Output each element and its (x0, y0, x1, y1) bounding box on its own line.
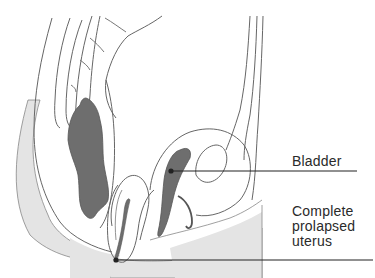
vertebral-discs (71, 18, 126, 92)
pubic-bone (196, 145, 227, 182)
label-uterus-line-2: prolapsed (292, 219, 355, 234)
label-uterus-line-1: Complete (292, 204, 355, 219)
bladder-leader-dot (168, 168, 173, 173)
sacrum-outline (55, 18, 70, 128)
uterus-leader-dot (113, 257, 118, 262)
diagram-canvas: Bladder Complete prolapsed uterus (0, 0, 375, 278)
sacral-curve (105, 16, 162, 118)
label-bladder-text: Bladder (292, 153, 342, 169)
label-uterus-line-3: uterus (292, 234, 355, 249)
abdominal-wall-lines (226, 16, 263, 200)
label-bladder: Bladder (292, 154, 342, 169)
bladder-wall-dark (158, 148, 191, 236)
label-prolapsed-uterus: Complete prolapsed uterus (292, 204, 355, 249)
perineum-region (170, 212, 262, 278)
rectum (68, 98, 109, 218)
urethra (178, 196, 192, 228)
thigh-region (70, 238, 120, 278)
